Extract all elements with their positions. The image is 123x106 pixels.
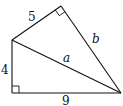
side-b — [61, 6, 121, 93]
label-4: 4 — [1, 63, 9, 77]
side-5 — [12, 6, 61, 40]
label-b: b — [92, 32, 100, 46]
right-angle-marker-top — [55, 10, 65, 16]
label-5: 5 — [28, 10, 36, 24]
side-a — [12, 40, 121, 93]
label-9: 9 — [62, 94, 70, 106]
label-a: a — [63, 51, 70, 65]
right-angle-marker-bottom — [12, 86, 19, 93]
geometry-diagram: 5 4 9 a b — [0, 0, 123, 106]
